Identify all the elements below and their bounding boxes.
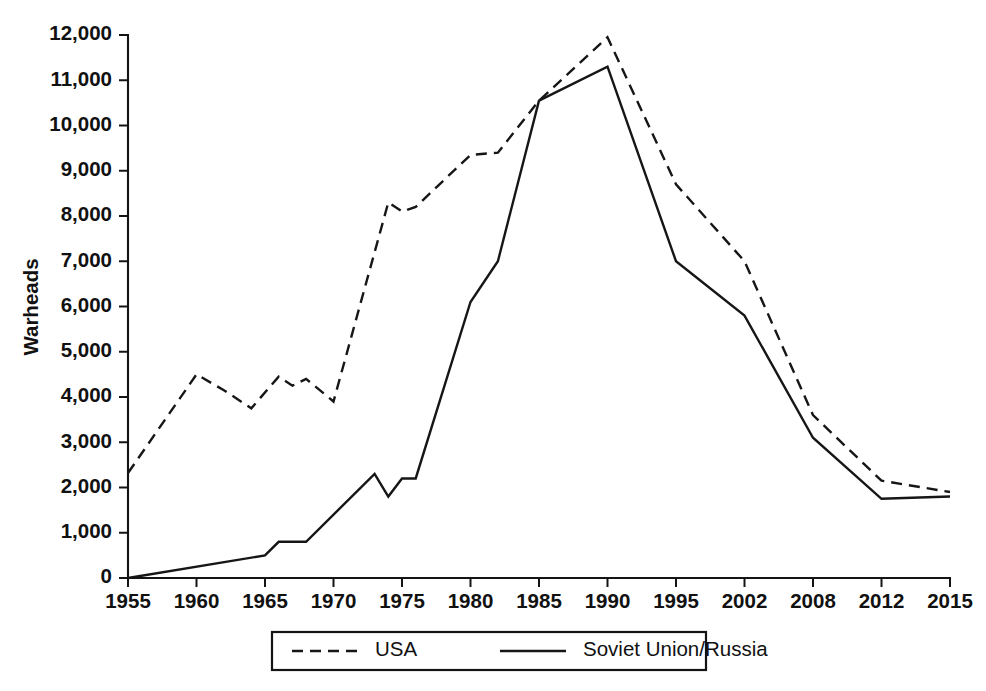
x-tick-group: 1955196019651970197519801985199019952002… xyxy=(105,578,973,612)
series-line-soviet-union-russia xyxy=(128,67,950,578)
legend-label-soviet-union-russia: Soviet Union/Russia xyxy=(583,637,768,660)
y-tick-label: 9,000 xyxy=(61,157,112,180)
x-tick-label: 1965 xyxy=(242,589,288,612)
x-axis-group: 1955196019651970197519801985199019952002… xyxy=(105,578,973,612)
y-axis-title: Warheads xyxy=(19,258,42,355)
y-tick-label: 7,000 xyxy=(61,248,112,271)
x-tick-label: 2002 xyxy=(722,589,768,612)
y-tick-label: 1,000 xyxy=(61,519,112,542)
y-axis-group: 01,0002,0003,0004,0005,0006,0007,0008,00… xyxy=(19,21,128,587)
series-group xyxy=(128,37,950,578)
series-line-usa xyxy=(128,37,950,492)
y-tick-label: 5,000 xyxy=(61,338,112,361)
y-tick-label: 12,000 xyxy=(49,21,112,44)
x-tick-label: 2012 xyxy=(859,589,905,612)
y-tick-label: 3,000 xyxy=(61,429,112,452)
x-tick-label: 1975 xyxy=(379,589,425,612)
x-tick-label: 1960 xyxy=(174,589,220,612)
y-tick-group: 01,0002,0003,0004,0005,0006,0007,0008,00… xyxy=(49,21,128,587)
y-tick-label: 10,000 xyxy=(49,112,112,135)
x-tick-label: 1990 xyxy=(585,589,631,612)
y-tick-label: 6,000 xyxy=(61,293,112,316)
y-tick-label: 8,000 xyxy=(61,202,112,225)
x-tick-label: 2008 xyxy=(790,589,836,612)
x-tick-label: 1980 xyxy=(448,589,494,612)
chart-canvas: 01,0002,0003,0004,0005,0006,0007,0008,00… xyxy=(0,0,986,691)
x-tick-label: 1995 xyxy=(653,589,699,612)
legend: USASoviet Union/Russia xyxy=(272,632,768,670)
x-tick-label: 1985 xyxy=(516,589,562,612)
x-tick-label: 1970 xyxy=(311,589,357,612)
x-tick-label: 1955 xyxy=(105,589,151,612)
y-tick-label: 4,000 xyxy=(61,383,112,406)
legend-label-usa: USA xyxy=(375,637,417,660)
warheads-line-chart: 01,0002,0003,0004,0005,0006,0007,0008,00… xyxy=(0,0,986,691)
y-tick-label: 2,000 xyxy=(61,474,112,497)
y-tick-label: 0 xyxy=(101,564,112,587)
x-tick-label: 2015 xyxy=(927,589,973,612)
y-tick-label: 11,000 xyxy=(50,67,112,90)
